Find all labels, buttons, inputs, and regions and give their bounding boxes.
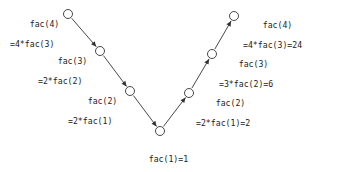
node-circle-fac3-up <box>208 50 217 59</box>
node-circle-fac3-down <box>96 47 105 56</box>
factorial-recursion-diagram: fac(4) =4*fac(3) fac(3) =2*fac(2) fac(2)… <box>0 0 341 172</box>
node-label-fac2-up-line2: =2*fac(1)=2 <box>196 118 250 128</box>
node-label-fac4-up-line2: =4*fac(3)=24 <box>243 40 302 50</box>
node-label-fac2-down-line1: fac(2) <box>88 96 118 106</box>
node-label-fac2-down: fac(2) =2*fac(1) <box>68 86 117 146</box>
node-label-fac2-down-line2: =2*fac(1) <box>68 116 117 126</box>
edge-fac1-to-fac2-arrowhead <box>180 98 185 104</box>
node-label-fac3-down-line1: fac(3) <box>58 56 88 66</box>
node-circle-fac4-up <box>230 12 239 21</box>
edge-fac3-to-fac2 <box>103 56 126 87</box>
node-label-fac3-up-line2: =3*fac(2)=6 <box>219 79 273 89</box>
edge-fac3-to-fac2-arrowhead <box>122 81 127 87</box>
node-circle-fac4-down <box>64 10 73 19</box>
node-label-fac3-down-line2: =2*fac(2) <box>38 76 87 86</box>
edge-fac4-to-fac3 <box>72 18 97 46</box>
node-label-fac1-base-line1: fac(1)=1 <box>149 154 188 164</box>
edge-fac2-to-fac1 <box>133 96 156 127</box>
edge-fac2-to-fac1-arrowhead <box>152 121 157 127</box>
edge-fac1-to-fac2 <box>163 98 185 127</box>
node-label-fac4-up-line1: fac(4) <box>263 20 293 30</box>
node-label-fac4-up: fac(4) =4*fac(3)=24 <box>243 10 302 70</box>
node-circle-fac2-down <box>126 87 135 96</box>
node-circle-fac2-up <box>185 89 194 98</box>
node-circle-fac1-base <box>156 127 165 136</box>
node-label-fac1-base: fac(1)=1 <box>129 144 188 172</box>
node-label-fac4-down-line1: fac(4) <box>30 19 60 29</box>
